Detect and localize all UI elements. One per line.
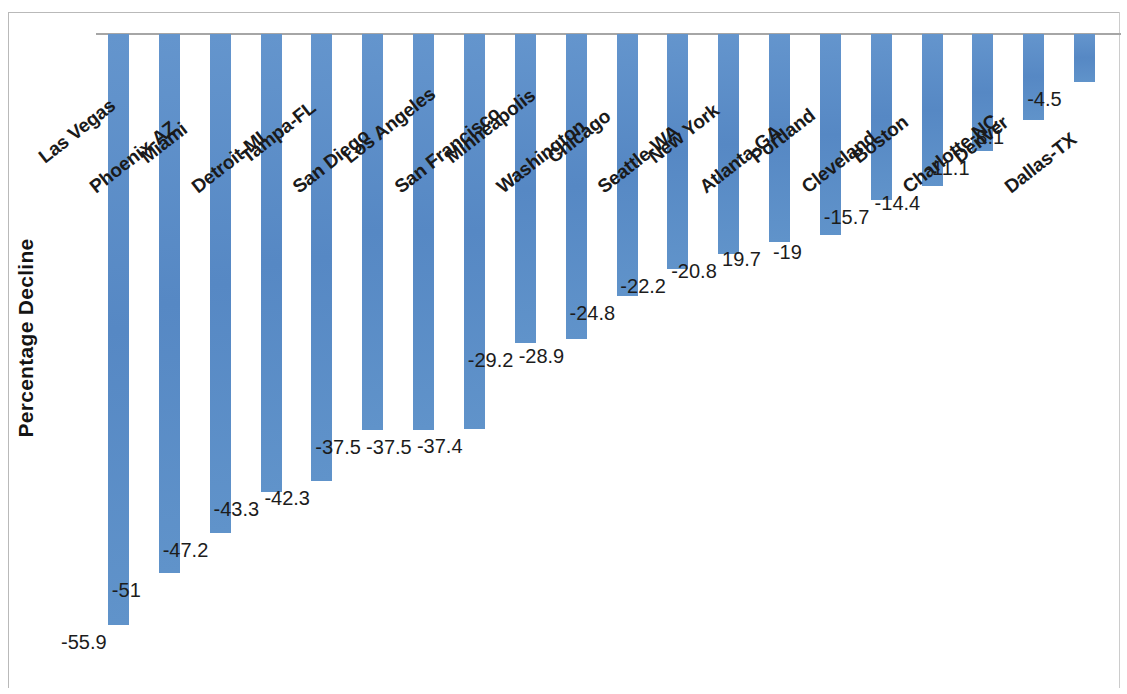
bar [1074, 34, 1095, 82]
bar [871, 34, 892, 200]
value-label: -22.2 [620, 275, 666, 298]
bar [566, 34, 587, 339]
value-label: -14.4 [875, 192, 921, 215]
value-label: -51 [112, 579, 141, 602]
bar [311, 34, 332, 481]
value-label: -29.2 [468, 349, 514, 372]
value-label: -37.5 [366, 436, 412, 459]
value-label: -28.9 [519, 345, 565, 368]
value-label: -19 [773, 241, 802, 264]
category-label: Dallas-TX [1001, 128, 1081, 198]
value-label: -11.1 [925, 157, 969, 180]
value-label: -47.2 [163, 539, 209, 562]
value-label: -15.7 [824, 206, 870, 229]
value-label: -37.4 [417, 435, 463, 458]
bar [261, 34, 282, 492]
value-label: -24.8 [570, 302, 616, 325]
y-axis-title: Percentage Decline [14, 208, 38, 468]
bar [820, 34, 841, 235]
bar [159, 34, 180, 573]
zero-axis-line [96, 33, 1121, 35]
bar [108, 34, 129, 625]
value-label: 19.7 [722, 248, 761, 271]
value-label: -20.8 [671, 260, 717, 283]
bar [362, 34, 383, 430]
value-label: -4.5 [1027, 88, 1061, 111]
bar-chart-plot-area: Las VegasPhoenix-AZMiamiDetroit-MITampa-… [0, 0, 1127, 694]
value-label: 8.1 [976, 126, 1004, 149]
bar [718, 34, 739, 254]
chart-page: Las VegasPhoenix-AZMiamiDetroit-MITampa-… [0, 0, 1127, 694]
value-label: -42.3 [264, 487, 310, 510]
value-label: -37.5 [315, 436, 361, 459]
value-label: -43.3 [214, 498, 260, 521]
bar [210, 34, 231, 533]
value-label: -55.9 [61, 631, 107, 654]
